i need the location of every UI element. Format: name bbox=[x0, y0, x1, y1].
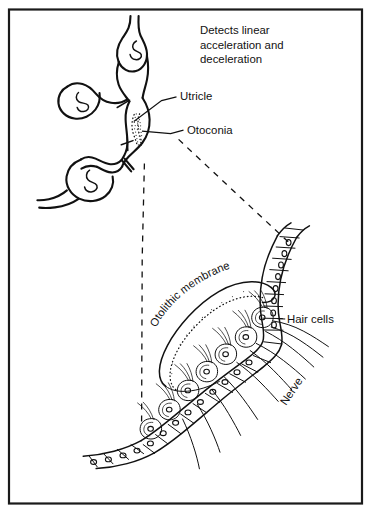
utricle-tick-vertical bbox=[127, 137, 128, 150]
caption-line-3: deceleration bbox=[200, 53, 262, 65]
page-background bbox=[0, 0, 370, 516]
caption-line-2: acceleration and bbox=[200, 39, 284, 51]
hair-cells-label-group: Hair cells bbox=[278, 313, 335, 325]
label-hair-cells: Hair cells bbox=[287, 313, 334, 325]
figure-root: Detects linear acceleration and decelera… bbox=[0, 0, 370, 516]
caption-line-1: Detects linear bbox=[200, 24, 270, 36]
utricle-diagram-svg: Detects linear acceleration and decelera… bbox=[0, 0, 370, 516]
label-otoconia: Otoconia bbox=[187, 124, 233, 136]
label-utricle: Utricle bbox=[180, 90, 212, 102]
